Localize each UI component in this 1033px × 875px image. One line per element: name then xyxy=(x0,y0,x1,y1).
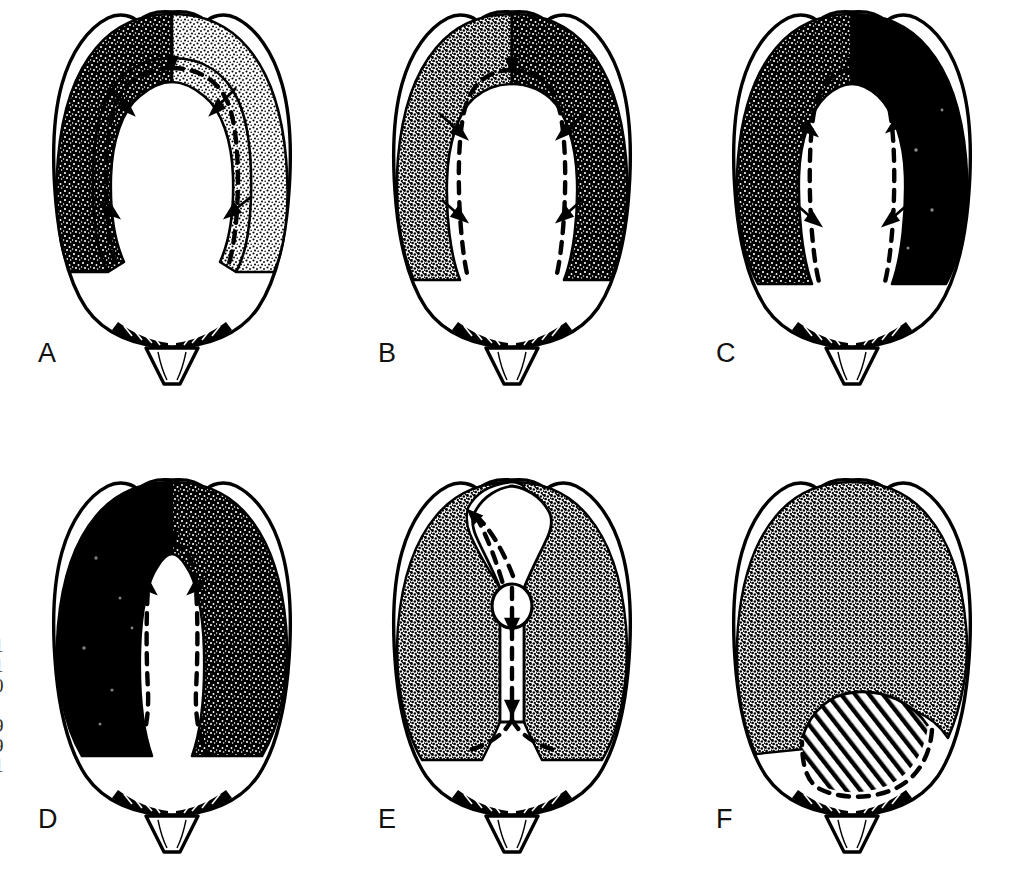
labrum-a xyxy=(146,348,198,384)
figure-panel-grid: A xyxy=(0,0,1033,875)
panel-d: D xyxy=(0,438,345,875)
labrum-c xyxy=(826,348,878,384)
panel-label-d: D xyxy=(38,806,58,833)
panel-e: E xyxy=(340,438,685,875)
panel-label-c: C xyxy=(716,340,736,367)
panel-a: A xyxy=(0,0,345,437)
panel-f: F xyxy=(680,438,1025,875)
panel-label-a: A xyxy=(38,340,56,367)
labrum-f xyxy=(826,816,878,852)
panel-label-b: B xyxy=(378,340,396,367)
labrum-b xyxy=(486,348,538,384)
labrum-d xyxy=(146,816,198,852)
panel-label-e: E xyxy=(378,806,396,833)
panel-label-f: F xyxy=(716,806,733,833)
panel-c: C xyxy=(680,0,1025,437)
panel-b: B xyxy=(340,0,685,437)
labrum-e xyxy=(486,816,538,852)
margin-running-text: 1 1 0 - 9 9 1 xyxy=(0,636,20,776)
